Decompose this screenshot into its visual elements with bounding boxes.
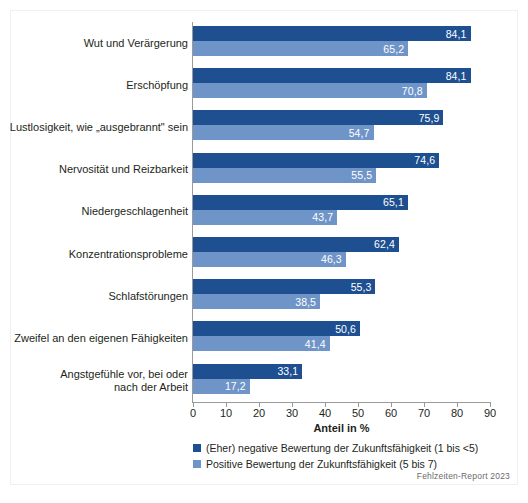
category-label-line: Schlafstörungen	[109, 290, 189, 303]
bar-positive[interactable]: 55,5	[193, 168, 376, 183]
bar-negative[interactable]: 50,6	[193, 321, 360, 336]
category-label: Erschöpfung	[8, 64, 188, 106]
bar-value-label: 46,3	[321, 253, 346, 265]
bar-value-label: 33,1	[277, 365, 302, 377]
axis-tick-label: 30	[286, 407, 298, 419]
legend-label: Positive Bewertung der Zukunftsfähigkeit…	[206, 458, 437, 470]
bar-negative[interactable]: 75,9	[193, 110, 443, 125]
legend-item[interactable]: (Eher) negative Bewertung der Zukunftsfä…	[193, 441, 513, 455]
axis-title: Anteil in %	[193, 422, 490, 434]
category-label: Konzentrationsprobleme	[8, 233, 188, 275]
bar-value-label: 43,7	[312, 211, 337, 223]
bar-value-label: 65,1	[383, 196, 408, 208]
legend-swatch-icon	[193, 444, 201, 452]
legend-label: (Eher) negative Bewertung der Zukunftsfä…	[206, 442, 478, 454]
bar-positive[interactable]: 65,2	[193, 41, 408, 56]
bar-value-label: 65,2	[383, 43, 408, 55]
bar-value-label: 62,4	[374, 238, 399, 250]
bar-negative[interactable]: 65,1	[193, 195, 408, 210]
source-note: Fehlzeiten-Report 2023	[417, 471, 510, 481]
bar-value-label: 50,6	[335, 323, 360, 335]
chart-row: Erschöpfung84,170,8	[0, 64, 528, 106]
axis-tick-label: 50	[352, 407, 364, 419]
axis-tick-label: 10	[220, 407, 232, 419]
bar-group: 33,117,2	[193, 360, 528, 402]
chart-row: Wut und Verärgerung84,165,2	[0, 22, 528, 64]
chart-row: Nervosität und Reizbarkeit74,655,5	[0, 149, 528, 191]
value-axis-line	[192, 402, 491, 403]
chart-row: Zweifel an den eigenen Fähigkeiten50,641…	[0, 317, 528, 359]
legend-item[interactable]: Positive Bewertung der Zukunftsfähigkeit…	[193, 457, 513, 471]
bar-positive[interactable]: 41,4	[193, 336, 330, 351]
bar-negative[interactable]: 84,1	[193, 26, 471, 41]
bar-group: 84,170,8	[193, 64, 528, 106]
bar-group: 65,143,7	[193, 191, 528, 233]
chart-row: Niedergeschlagenheit65,143,7	[0, 191, 528, 233]
category-label-line: Nervosität und Reizbarkeit	[59, 163, 188, 176]
category-label: Wut und Verärgerung	[8, 22, 188, 64]
chart-row: Angstgefühle vor, bei odernach der Arbei…	[0, 360, 528, 402]
category-label-line: Lustlosigkeit, wie „ausgebrannt" sein	[10, 121, 188, 134]
plot-area: 0102030405060708090 Wut und Verärgerung8…	[0, 0, 528, 503]
category-label-line: Erschöpfung	[126, 79, 188, 92]
category-label: Angstgefühle vor, bei odernach der Arbei…	[8, 360, 188, 402]
bar-negative[interactable]: 62,4	[193, 237, 399, 252]
bar-positive[interactable]: 70,8	[193, 83, 427, 98]
bar-positive[interactable]: 17,2	[193, 379, 250, 394]
axis-tick-label: 80	[451, 407, 463, 419]
bar-rows: Wut und Verärgerung84,165,2Erschöpfung84…	[0, 22, 528, 402]
bar-value-label: 74,6	[414, 154, 439, 166]
axis-tick-label: 40	[319, 407, 331, 419]
chart-row: Schlafstörungen55,338,5	[0, 275, 528, 317]
axis-tick-label: 70	[418, 407, 430, 419]
chart-row: Konzentrationsprobleme62,446,3	[0, 233, 528, 275]
bar-value-label: 55,3	[351, 281, 376, 293]
chart-figure: 0102030405060708090 Wut und Verärgerung8…	[0, 0, 528, 503]
bar-positive[interactable]: 54,7	[193, 125, 374, 140]
bar-group: 62,446,3	[193, 233, 528, 275]
axis-tick-label: 60	[385, 407, 397, 419]
category-label-line: Wut und Verärgerung	[84, 37, 188, 50]
bar-value-label: 38,5	[295, 296, 320, 308]
category-label: Schlafstörungen	[8, 275, 188, 317]
axis-tick-label: 20	[253, 407, 265, 419]
bar-value-label: 70,8	[402, 85, 427, 97]
bar-positive[interactable]: 38,5	[193, 294, 320, 309]
category-label-line: Niedergeschlagenheit	[82, 205, 188, 218]
bar-value-label: 41,4	[305, 338, 330, 350]
category-label: Lustlosigkeit, wie „ausgebrannt" sein	[8, 106, 188, 148]
category-label-line: Konzentrationsprobleme	[69, 248, 188, 261]
bar-group: 55,338,5	[193, 275, 528, 317]
bar-value-label: 17,2	[225, 380, 250, 392]
axis-tick-label: 0	[190, 407, 196, 419]
bar-value-label: 84,1	[446, 28, 471, 40]
category-label-line: nach der Arbeit	[114, 381, 188, 394]
legend-swatch-icon	[193, 460, 201, 468]
chart-legend: (Eher) negative Bewertung der Zukunftsfä…	[193, 441, 513, 473]
axis-tick-label: 90	[484, 407, 496, 419]
bar-negative[interactable]: 33,1	[193, 364, 302, 379]
bar-group: 50,641,4	[193, 317, 528, 359]
bar-value-label: 75,9	[419, 112, 444, 124]
bar-group: 75,954,7	[193, 106, 528, 148]
bar-value-label: 54,7	[349, 127, 374, 139]
bar-positive[interactable]: 46,3	[193, 252, 346, 267]
category-label: Zweifel an den eigenen Fähigkeiten	[8, 317, 188, 359]
category-label: Nervosität und Reizbarkeit	[8, 149, 188, 191]
bar-negative[interactable]: 84,1	[193, 68, 471, 83]
chart-row: Lustlosigkeit, wie „ausgebrannt" sein75,…	[0, 106, 528, 148]
bar-value-label: 84,1	[446, 70, 471, 82]
category-label-line: Angstgefühle vor, bei oder	[60, 368, 188, 381]
bar-value-label: 55,5	[351, 169, 376, 181]
category-label-line: Zweifel an den eigenen Fähigkeiten	[14, 332, 188, 345]
bar-negative[interactable]: 55,3	[193, 279, 375, 294]
category-label: Niedergeschlagenheit	[8, 191, 188, 233]
bar-group: 74,655,5	[193, 149, 528, 191]
bar-negative[interactable]: 74,6	[193, 153, 439, 168]
bar-positive[interactable]: 43,7	[193, 210, 337, 225]
bar-group: 84,165,2	[193, 22, 528, 64]
